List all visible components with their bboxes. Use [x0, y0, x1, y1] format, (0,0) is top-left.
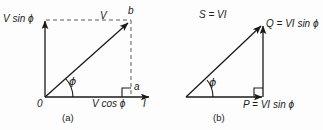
- label-origin: 0: [37, 99, 43, 109]
- label-angle-phi-b: ϕ: [209, 77, 216, 88]
- caption-panel-b: (b): [213, 112, 225, 123]
- caption-panel-a: (a): [62, 112, 74, 123]
- panel-b-graphics: [186, 26, 263, 97]
- label-apparent-power: S = VI: [199, 10, 227, 20]
- label-v-sin-phi: V sin ϕ: [3, 14, 34, 24]
- label-real-power: P = VI sin ϕ: [243, 100, 294, 110]
- label-v-cos-phi: V cos ϕ: [92, 99, 125, 109]
- right-angle-marker-a: [122, 88, 131, 97]
- apparent-power-arrow: [186, 26, 261, 97]
- right-angle-marker-b: [254, 88, 263, 97]
- label-reactive-power: Q = VI sin ϕ: [266, 19, 319, 29]
- label-point-a: a: [134, 82, 140, 92]
- label-axis-i: I: [143, 99, 146, 109]
- label-angle-phi-a: ϕ: [69, 76, 76, 87]
- voltage-phasor-arrow: [45, 23, 128, 97]
- figure-container: V sin ϕ V b a 0 V cos ϕ I ϕ (a) S = VI Q…: [0, 0, 323, 130]
- label-vector-v: V: [100, 11, 107, 21]
- label-point-b: b: [128, 6, 134, 16]
